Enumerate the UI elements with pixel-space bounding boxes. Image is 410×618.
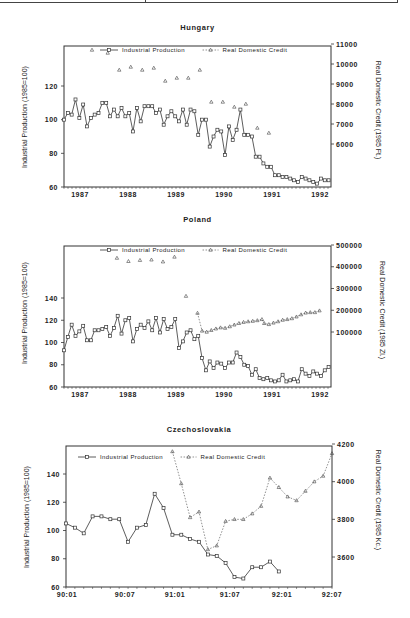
svg-text:Industrial Production: Industrial Production — [100, 454, 163, 460]
y-tick-left: 100 — [47, 527, 60, 534]
y-tick-right: 3800 — [337, 516, 355, 523]
x-tick: 1989 — [167, 391, 185, 398]
x-tick: 1990 — [215, 191, 233, 198]
svg-text:Industrial Production: Industrial Production — [122, 47, 185, 53]
x-tick: 91:07 — [220, 591, 240, 598]
plot-frame — [66, 446, 332, 587]
chart-hungary: Hungary608010012060007000800090001000011… — [21, 23, 382, 198]
y-tick-left: 100 — [45, 116, 58, 123]
chart-poland: Poland6080100120140100000200000300000400… — [21, 215, 386, 398]
x-tick: 1992 — [311, 391, 329, 398]
y-tick-left: 120 — [47, 499, 60, 506]
y-tick-left: 60 — [49, 184, 58, 191]
y-tick-right: 100000 — [336, 329, 362, 336]
y-tick-right: 10000 — [336, 61, 358, 68]
x-tick: 1992 — [311, 191, 329, 198]
y-tick-right: 300000 — [336, 285, 362, 292]
x-tick: 1987 — [71, 391, 89, 398]
x-tick: 91:01 — [165, 591, 185, 598]
y-tick-right: 4200 — [337, 441, 355, 448]
legend: Industrial ProductionReal Domestic Credi… — [78, 454, 265, 460]
y-axis-label-right: Real Domestic Credit (1985 Zl.) — [378, 261, 386, 359]
x-tick: 1987 — [71, 191, 89, 198]
x-tick: 90:07 — [115, 591, 135, 598]
legend: Industrial ProductionReal Domestic Credi… — [100, 247, 287, 253]
chart-title: Hungary — [180, 23, 215, 32]
y-axis-label-right: Real Domestic Credit (1985 Ft.) — [374, 61, 382, 159]
series-industrial-production — [63, 98, 331, 185]
series-industrial-production — [65, 492, 281, 580]
svg-text:Real Domestic Credit: Real Domestic Credit — [223, 47, 288, 53]
x-tick: 1989 — [167, 191, 185, 198]
series-real-domestic-credit — [171, 450, 334, 551]
x-tick: 1988 — [119, 191, 137, 198]
x-tick: 92:01 — [272, 591, 292, 598]
y-tick-left: 80 — [49, 150, 58, 157]
y-tick-left: 140 — [45, 295, 58, 302]
y-tick-right: 4000 — [337, 478, 355, 485]
x-tick: 90:01 — [57, 591, 77, 598]
y-tick-left: 140 — [47, 471, 60, 478]
plot-frame — [64, 246, 331, 387]
y-tick-right: 11000 — [336, 41, 358, 48]
y-axis-label-left: Industrial Production (1985=100) — [21, 262, 29, 364]
y-tick-right: 7000 — [336, 121, 354, 128]
y-tick-left: 60 — [51, 584, 60, 591]
y-tick-right: 500000 — [336, 242, 362, 249]
chart-title: Czechoslovakia — [167, 425, 232, 434]
series-real-domestic-credit — [115, 255, 321, 333]
y-axis-label-left: Industrial Production (1985=100) — [21, 66, 29, 168]
svg-text:Industrial Production: Industrial Production — [122, 247, 185, 253]
y-tick-left: 80 — [51, 555, 60, 562]
legend: Industrial ProductionReal Domestic Credi… — [90, 47, 287, 53]
x-tick: 1988 — [119, 391, 137, 398]
y-tick-right: 9000 — [336, 81, 354, 88]
y-tick-right: 8000 — [336, 101, 354, 108]
y-tick-right: 400000 — [336, 263, 362, 270]
chart-czechoslovakia: Czechoslovakia60801001201403600380040004… — [23, 425, 382, 598]
y-tick-left: 80 — [49, 361, 58, 368]
y-axis-label-left: Industrial Production (1985=100) — [23, 466, 31, 568]
y-tick-right: 200000 — [336, 307, 362, 314]
y-axis-label-right: Real Domestic Credit (1985 Kc.) — [374, 450, 382, 550]
y-tick-left: 120 — [45, 317, 58, 324]
y-tick-left: 100 — [45, 339, 58, 346]
plot-frame — [64, 46, 331, 187]
x-tick: 92:07 — [322, 591, 342, 598]
x-tick: 1991 — [263, 191, 281, 198]
charts-figure: Hungary608010012060007000800090001000011… — [0, 0, 410, 618]
x-tick: 1990 — [215, 391, 233, 398]
chart-title: Poland — [183, 215, 212, 224]
y-tick-left: 60 — [49, 384, 58, 391]
svg-text:Real Domestic Credit: Real Domestic Credit — [223, 247, 288, 253]
x-tick: 1991 — [263, 391, 281, 398]
y-tick-left: 120 — [45, 83, 58, 90]
y-tick-right: 6000 — [336, 141, 354, 148]
series-industrial-production — [63, 314, 331, 383]
svg-text:Real Domestic Credit: Real Domestic Credit — [201, 454, 266, 460]
y-tick-right: 3600 — [337, 554, 355, 561]
